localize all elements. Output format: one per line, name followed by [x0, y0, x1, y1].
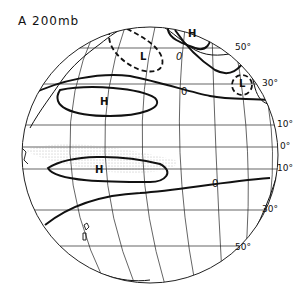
lat-label-10n: 10°	[277, 119, 293, 129]
lat-label-30s: 30°	[262, 204, 278, 214]
coastline-antarctica	[105, 275, 150, 281]
contour-label-0-b: 0	[181, 86, 187, 97]
label-l-north-pacific: L	[140, 51, 147, 62]
lat-label-50s: 50°	[235, 242, 251, 252]
graticule	[0, 16, 301, 285]
contour-zero-south	[45, 178, 270, 225]
label-h-south-subtropical: H	[95, 164, 103, 175]
lat-label-30n: 30°	[262, 78, 278, 88]
label-h-north-pacific: H	[188, 28, 196, 39]
label-l-gulf: L	[239, 78, 246, 89]
contour-label-0-a: 0	[176, 51, 182, 62]
lat-label-0: 0°	[280, 141, 290, 151]
globe-map: H L H H L 0 0 0 50° 30° 10° 0° 10° 30° 5…	[0, 0, 301, 294]
lat-label-50n: 50°	[235, 42, 251, 52]
contour-label-0-c: 0	[212, 178, 218, 189]
contour-low-dashed	[109, 28, 163, 72]
label-h-north-subtropical: H	[100, 96, 108, 107]
lat-label-10s: 10°	[277, 163, 293, 173]
